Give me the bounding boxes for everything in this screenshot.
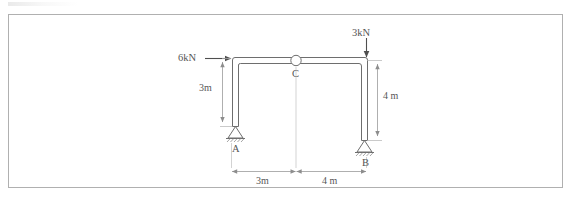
dim-right-height-geometry [367, 61, 382, 141]
node-a-label: A [232, 143, 240, 154]
dim-right-height-label: 4 m [383, 90, 398, 101]
node-b-label: B [362, 157, 369, 168]
internal-hinge-c [291, 55, 301, 65]
dim-span-left-label: 3m [256, 175, 269, 186]
frame-members [233, 58, 368, 141]
diagram-canvas: 6kN 3kN 3m 4 m 3m 4 m A B C [0, 0, 576, 206]
node-c-label: C [292, 68, 299, 79]
support-a-pin [226, 127, 245, 143]
dimension-extension-lines [232, 67, 367, 168]
member-inner-edge [239, 64, 362, 141]
load-6kn-label: 6kN [178, 52, 196, 63]
frame-drawing [0, 0, 576, 206]
dim-left-height-label: 3m [199, 82, 212, 93]
member-outer-edge [233, 58, 368, 141]
dim-left-height-geometry [220, 59, 232, 127]
load-3kn-label: 3kN [352, 27, 370, 38]
support-b-pin [355, 141, 374, 157]
dim-span-right-label: 4 m [322, 175, 337, 186]
